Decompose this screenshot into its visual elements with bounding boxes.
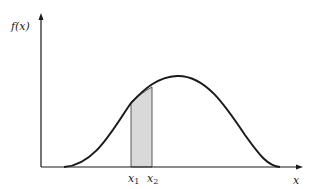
density-curve (64, 76, 280, 167)
x-axis-arrow-icon (296, 165, 303, 170)
marker-x2-label: x2 (147, 172, 158, 186)
y-axis-label: f(x) (10, 20, 30, 33)
x-axis-label: x (293, 174, 300, 187)
marker-x1-label: x1 (128, 172, 139, 186)
density-diagram: f(x) x x1 x2 (0, 0, 314, 189)
y-axis-arrow-icon (39, 13, 44, 20)
